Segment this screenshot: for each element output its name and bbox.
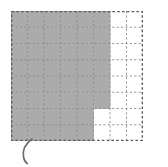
shaded-cell [94,44,111,61]
shaded-cell [11,92,28,109]
shaded-cell [44,109,61,126]
shaded-cell [61,76,78,93]
shaded-cell [44,11,61,28]
shaded-cell [77,92,94,109]
shaded-cell [77,109,94,126]
shaded-cell [44,27,61,44]
shaded-cell [28,60,45,77]
shaded-cell [61,109,78,126]
shaded-cell [61,11,78,28]
shaded-area-grid-figure [11,11,143,141]
shaded-cell [44,44,61,61]
shaded-cell [77,11,94,28]
shaded-cell [77,60,94,77]
shaded-cell [44,60,61,77]
shaded-cell [11,76,28,93]
shaded-cell [77,44,94,61]
shaded-cell [28,44,45,61]
open-parenthesis-icon [16,137,42,165]
shaded-cell [11,60,28,77]
shaded-cell [94,11,111,28]
shaded-cell [94,92,111,109]
shaded-cell [28,92,45,109]
shaded-cell [28,11,45,28]
shaded-cell [77,76,94,93]
shaded-cell [28,76,45,93]
shaded-cell [11,44,28,61]
shaded-cell [28,27,45,44]
shaded-cell [77,27,94,44]
grid-svg [11,11,143,141]
shaded-cell [28,109,45,126]
shaded-cell [44,76,61,93]
shaded-cell [61,27,78,44]
shaded-cell [61,125,78,141]
shaded-cell [61,92,78,109]
shaded-cell [77,125,94,141]
worksheet-canvas [0,0,168,167]
shaded-cell [11,109,28,126]
shaded-cell [28,125,45,141]
shaded-cell [61,60,78,77]
shaded-cell [11,125,28,141]
shaded-cell [94,60,111,77]
shaded-cell [44,92,61,109]
shaded-cell [61,44,78,61]
shaded-cell [94,27,111,44]
shaded-cell [11,11,28,28]
shaded-cell [11,27,28,44]
shaded-cell [44,125,61,141]
shaded-cell [94,76,111,93]
